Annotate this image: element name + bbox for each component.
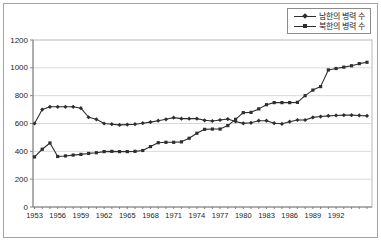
diamond-marker-icon — [302, 13, 308, 19]
svg-text:1200: 1200 — [10, 36, 28, 45]
svg-text:1983: 1983 — [258, 211, 275, 220]
line-chart: 0200400600800100012001953195619591962196… — [0, 0, 381, 241]
legend-label-south: 남한의 병력 수 — [316, 12, 365, 21]
svg-text:1971: 1971 — [165, 211, 182, 220]
svg-text:600: 600 — [15, 119, 29, 128]
svg-text:1980: 1980 — [235, 211, 252, 220]
svg-text:1986: 1986 — [281, 211, 298, 220]
chart-container: 0200400600800100012001953195619591962196… — [0, 0, 381, 241]
legend-item-south: 남한의 병력 수 — [294, 11, 370, 21]
north-series-key — [294, 22, 316, 31]
legend: 남한의 병력 수 북한의 병력 수 — [287, 8, 371, 34]
svg-text:1974: 1974 — [189, 211, 206, 220]
svg-text:800: 800 — [15, 91, 29, 100]
legend-item-north: 북한의 병력 수 — [294, 21, 370, 31]
south-series-key — [294, 12, 316, 21]
svg-text:1953: 1953 — [26, 211, 43, 220]
svg-text:200: 200 — [15, 175, 29, 184]
svg-text:1968: 1968 — [142, 211, 159, 220]
legend-label-north: 북한의 병력 수 — [316, 22, 365, 31]
svg-text:1959: 1959 — [73, 211, 90, 220]
svg-text:400: 400 — [15, 147, 29, 156]
svg-text:1977: 1977 — [212, 211, 229, 220]
svg-text:1965: 1965 — [119, 211, 136, 220]
svg-text:1962: 1962 — [96, 211, 113, 220]
svg-text:1989: 1989 — [305, 211, 322, 220]
svg-text:1956: 1956 — [49, 211, 66, 220]
svg-text:1992: 1992 — [328, 211, 345, 220]
svg-text:1000: 1000 — [10, 63, 28, 72]
square-marker-icon — [303, 24, 307, 28]
